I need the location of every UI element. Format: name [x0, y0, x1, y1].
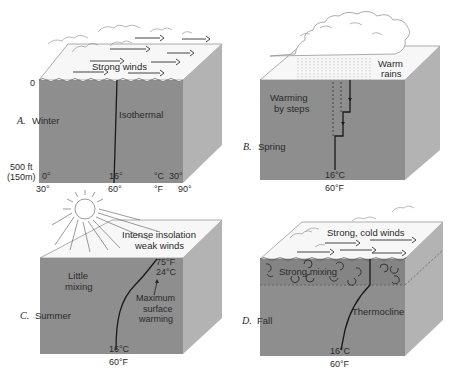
season-label: Winter — [32, 115, 59, 126]
label-thermocline: Thermocline — [352, 306, 404, 317]
panel-b-spring: Warm rains Warming by steps B. Spring 16… — [243, 11, 440, 193]
label-by-steps: by steps — [274, 103, 310, 114]
temp-f-60: 60° — [108, 184, 122, 194]
panel-letter: D. — [241, 315, 252, 326]
season-label: Summer — [35, 310, 71, 321]
surface-temp-c: 24°C — [156, 267, 177, 277]
label-mixing: mixing — [65, 281, 92, 292]
block-front-face — [39, 80, 183, 183]
depth-bottom-m: (150m) — [7, 172, 36, 182]
temp-c-16: 16° — [109, 171, 123, 181]
label-warming: Warming — [270, 92, 308, 103]
bottom-temp-f: 60°F — [330, 359, 350, 369]
depth-bottom-ft: 500 ft — [10, 162, 33, 172]
bottom-temp-c: 16°C — [325, 170, 346, 180]
panel-letter: B. — [243, 141, 252, 152]
label-strong-mixing: Strong mixing — [279, 266, 337, 277]
label-warming: warming — [138, 314, 173, 324]
temp-f-unit: °F — [154, 184, 164, 194]
label-maximum: Maximum — [136, 293, 175, 303]
bottom-temp-c: 16°C — [330, 346, 351, 356]
seasonal-thermal-diagram: Strong winds Isothermal A. Winter 0 500 … — [0, 0, 451, 372]
depth-top-label: 0 — [30, 78, 35, 88]
label-intense-insolation: Intense insolation — [122, 229, 196, 240]
season-label: Spring — [258, 141, 285, 152]
bottom-temp-f: 60°F — [325, 183, 345, 193]
label-isothermal: Isothermal — [119, 109, 163, 120]
cloud-icon — [270, 11, 410, 56]
label-little: Little — [68, 270, 88, 281]
label-surface: surface — [143, 304, 173, 314]
temp-f-90: 90° — [178, 184, 192, 194]
label-weak-winds: weak winds — [134, 240, 184, 251]
label-rains: rains — [381, 68, 402, 79]
temp-c-0: 0° — [42, 171, 51, 181]
bottom-temp-f: 60°F — [109, 357, 129, 367]
bottom-temp-c: 16°C — [109, 344, 130, 354]
label-strong-winds: Strong winds — [92, 61, 147, 72]
label-strong-cold-winds: Strong, cold winds — [327, 227, 405, 238]
panel-letter: A. — [16, 115, 26, 126]
panel-letter: C. — [20, 310, 29, 321]
panel-d-fall: Strong, cold winds Strong mixing Thermoc… — [241, 206, 443, 369]
temp-f-30: 30° — [36, 184, 50, 194]
panel-a-winter: Strong winds Isothermal A. Winter 0 500 … — [7, 25, 222, 194]
panel-c-summer: Intense insolation weak winds 75°F 24°C … — [20, 190, 222, 367]
temp-c-30: 30° — [169, 171, 183, 181]
temp-c-unit: °C — [154, 171, 165, 181]
surface-temp-f: 75°F — [156, 257, 176, 267]
season-label: Fall — [257, 315, 272, 326]
